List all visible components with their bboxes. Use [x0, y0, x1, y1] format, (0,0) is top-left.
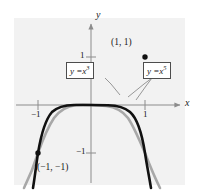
tick-label-y-pos1: 1	[80, 51, 85, 60]
callout-x3-lhs: y =	[70, 66, 82, 76]
figure-graph-x3-x5: y x 1 −1 −1 1 (1, 1) (−1, −1) y =x3 y =x…	[0, 0, 198, 192]
curve-y-equals-x3	[24, 105, 160, 188]
x-axis-label: x	[185, 98, 189, 108]
plot-canvas	[0, 0, 198, 192]
point-label-1-1: (1, 1)	[111, 38, 132, 48]
tick-label-y-neg1: −1	[76, 147, 86, 156]
y-axis-label: y	[96, 10, 100, 20]
callout-x5-exponent: 5	[163, 64, 166, 71]
leader-line-x3	[105, 78, 120, 95]
tick-label-x-neg1: −1	[31, 110, 41, 119]
curve-y-equals-x5	[33, 105, 151, 188]
point-label-neg1-neg1: (−1, −1)	[37, 163, 68, 173]
marker-point-1-1	[142, 54, 147, 59]
marker-point-neg1-neg1	[35, 150, 40, 155]
callout-x5-lhs: y =	[147, 66, 159, 76]
tick-label-x-pos1: 1	[143, 110, 148, 119]
callout-y-equals-x3: y =x3	[66, 62, 94, 79]
callout-y-equals-x5: y =x5	[143, 62, 171, 79]
callout-x3-exponent: 3	[86, 64, 89, 71]
